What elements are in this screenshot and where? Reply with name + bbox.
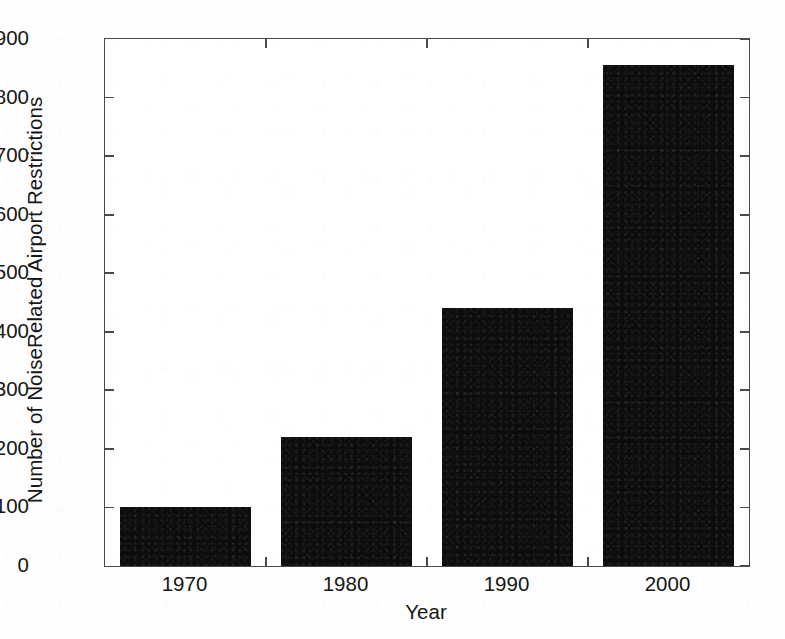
y-tick-label-500: 500 bbox=[0, 260, 29, 284]
bar-2000 bbox=[603, 65, 734, 566]
x-tick-bottom-2 bbox=[426, 557, 428, 566]
x-tick-top-1 bbox=[265, 39, 267, 48]
y-tick-label-400: 400 bbox=[0, 319, 29, 343]
bar-1990 bbox=[442, 308, 573, 566]
x-tick-label-1990: 1990 bbox=[427, 572, 587, 596]
x-tick-top-2 bbox=[426, 39, 428, 48]
y-tick-right-300 bbox=[740, 389, 749, 391]
y-tick-left-400 bbox=[105, 331, 114, 333]
y-tick-label-300: 300 bbox=[0, 377, 29, 401]
plot-area bbox=[104, 38, 750, 567]
y-tick-left-200 bbox=[105, 448, 114, 450]
x-tick-bottom-3 bbox=[587, 557, 589, 566]
y-tick-left-600 bbox=[105, 214, 114, 216]
y-tick-right-100 bbox=[740, 507, 749, 509]
y-tick-right-500 bbox=[740, 272, 749, 274]
y-tick-right-400 bbox=[740, 331, 749, 333]
bar-1980 bbox=[281, 437, 412, 566]
y-tick-label-700: 700 bbox=[0, 143, 29, 167]
x-tick-label-1980: 1980 bbox=[266, 572, 426, 596]
y-tick-label-900: 900 bbox=[0, 26, 29, 50]
x-tick-top-3 bbox=[587, 39, 589, 48]
y-tick-label-800: 800 bbox=[0, 85, 29, 109]
y-tick-right-700 bbox=[740, 155, 749, 157]
y-tick-right-600 bbox=[740, 214, 749, 216]
y-tick-label-0: 0 bbox=[0, 553, 29, 577]
y-tick-right-800 bbox=[740, 97, 749, 99]
y-tick-left-700 bbox=[105, 155, 114, 157]
y-tick-label-100: 100 bbox=[0, 494, 29, 518]
x-tick-label-2000: 2000 bbox=[588, 572, 748, 596]
y-tick-label-200: 200 bbox=[0, 436, 29, 460]
y-tick-right-900 bbox=[740, 38, 749, 40]
bar-1970 bbox=[120, 507, 251, 566]
y-tick-left-100 bbox=[105, 507, 114, 509]
y-tick-left-800 bbox=[105, 97, 114, 99]
x-tick-bottom-1 bbox=[265, 557, 267, 566]
y-tick-right-0 bbox=[740, 565, 749, 567]
x-tick-label-1970: 1970 bbox=[105, 572, 265, 596]
x-axis-title: Year bbox=[104, 600, 748, 624]
plot-inner bbox=[105, 39, 749, 566]
y-tick-left-500 bbox=[105, 272, 114, 274]
y-tick-left-300 bbox=[105, 389, 114, 391]
y-tick-right-200 bbox=[740, 448, 749, 450]
y-tick-label-600: 600 bbox=[0, 202, 29, 226]
bar-chart-figure: Number of NoiseRelated Airport Restricti… bbox=[0, 0, 785, 639]
